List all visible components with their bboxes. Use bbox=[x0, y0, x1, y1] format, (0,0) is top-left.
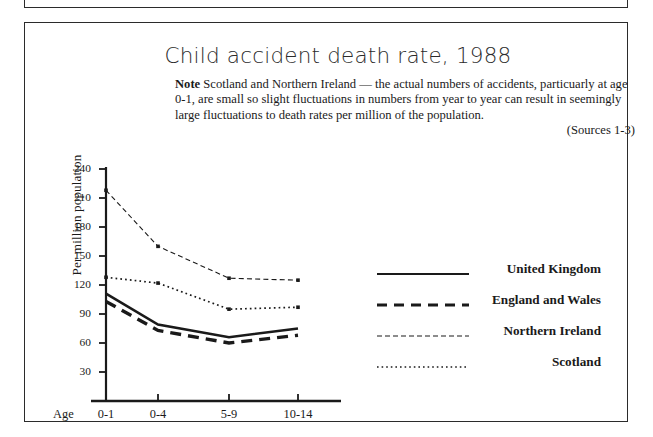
y-tick-label-150: 150 bbox=[57, 249, 91, 261]
data-point-marker bbox=[296, 278, 300, 282]
x-axis-title: Age bbox=[53, 407, 74, 422]
legend-item-scotland: Scotland bbox=[377, 354, 601, 385]
legend-label-scotland: Scotland bbox=[552, 354, 601, 370]
x-tick-label-0-1: 0-1 bbox=[78, 407, 134, 422]
legend-item-united-kingdom: United Kingdom bbox=[377, 261, 601, 292]
data-point-marker bbox=[296, 305, 300, 309]
data-point-marker bbox=[156, 245, 160, 249]
data-series-layer bbox=[104, 188, 300, 343]
data-point-marker bbox=[104, 275, 108, 279]
y-tick-label-60: 60 bbox=[57, 336, 91, 348]
series-line-scotland bbox=[106, 277, 298, 309]
data-point-marker bbox=[156, 281, 160, 285]
y-tick-label-90: 90 bbox=[57, 307, 91, 319]
data-point-marker bbox=[227, 307, 231, 311]
y-tick-label-210: 210 bbox=[57, 191, 91, 203]
y-tick-label-120: 120 bbox=[57, 278, 91, 290]
x-tick-label-5-9: 5-9 bbox=[201, 407, 257, 422]
preceding-figure-frame-sliver bbox=[24, 0, 628, 8]
legend-item-northern-ireland: Northern Ireland bbox=[377, 323, 601, 354]
y-tick-label-180: 180 bbox=[57, 220, 91, 232]
x-tick-label-0-4: 0-4 bbox=[130, 407, 186, 422]
figure-frame: Child accident death rate, 1988 Note Sco… bbox=[24, 22, 628, 422]
series-line-northern-ireland bbox=[106, 190, 298, 280]
y-tick-label-30: 30 bbox=[57, 365, 91, 377]
data-point-marker bbox=[227, 276, 231, 280]
legend-item-england-and-wales: England and Wales bbox=[377, 292, 601, 323]
legend-label-england-and-wales: England and Wales bbox=[492, 292, 601, 308]
legend-swatch-fine-dashed bbox=[377, 332, 469, 340]
data-point-marker bbox=[104, 188, 108, 192]
x-tick-label-10-14: 10-14 bbox=[270, 407, 326, 422]
y-tick-label-240: 240 bbox=[57, 162, 91, 174]
legend-swatch-dotted bbox=[377, 363, 469, 371]
legend-label-united-kingdom: United Kingdom bbox=[507, 261, 601, 277]
legend-label-northern-ireland: Northern Ireland bbox=[503, 323, 601, 339]
legend-swatch-solid bbox=[377, 270, 469, 278]
chart-legend: United Kingdom England and Wales Norther… bbox=[377, 261, 601, 385]
series-line-united-kingdom bbox=[106, 294, 298, 338]
legend-swatch-dashed bbox=[377, 301, 469, 309]
